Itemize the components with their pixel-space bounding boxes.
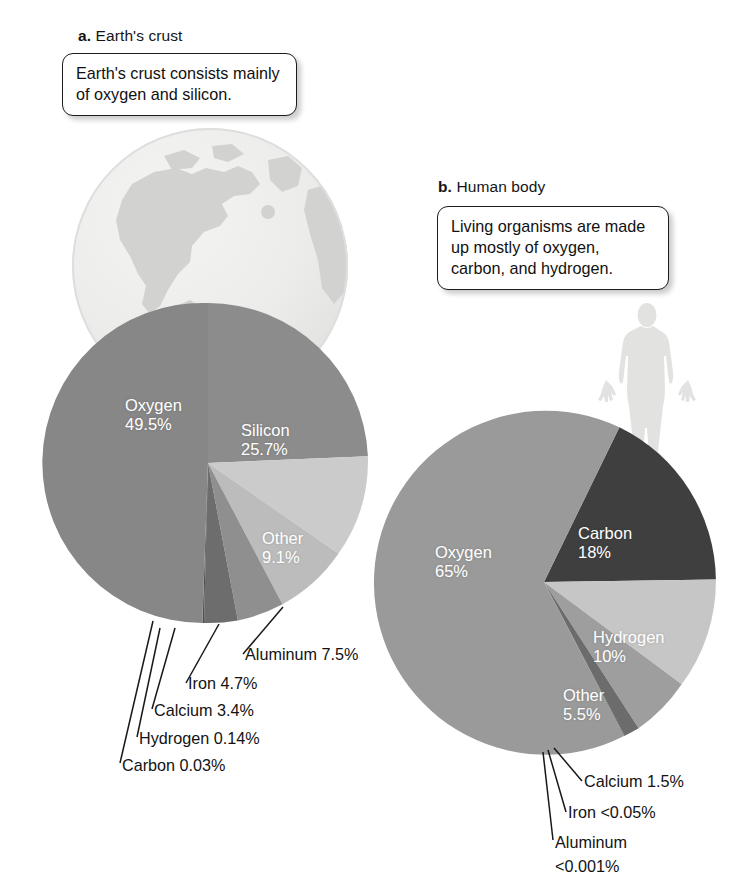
caption-aluminum-body-line1: Aluminum: [555, 833, 627, 852]
slice-value: 5.5%: [563, 705, 601, 723]
pie-chart-human-body: [365, 403, 723, 761]
caption-iron-crust: Iron 4.7%: [188, 674, 257, 693]
pie-b-slice-label-oxygen: Oxygen 65%: [435, 543, 492, 581]
slice-name: Silicon: [241, 421, 290, 439]
panel-a-callout-text: Earth's crust consists mainly of oxygen …: [76, 64, 280, 103]
panel-b-callout-box: Living organisms are made up mostly of o…: [437, 206, 669, 290]
slice-value: 65%: [435, 562, 468, 580]
panel-b-heading: b. Human body: [438, 178, 545, 196]
slice-name: Other: [262, 529, 303, 547]
caption-aluminum-crust: Aluminum 7.5%: [245, 645, 358, 664]
caption-carbon-crust: Carbon 0.03%: [122, 756, 226, 775]
slice-value: 9.1%: [262, 548, 300, 566]
caption-aluminum-body-line2: <0.001%: [555, 857, 619, 876]
pie-b-slice-label-carbon: Carbon 18%: [578, 524, 632, 562]
caption-iron-body: Iron <0.05%: [568, 803, 656, 822]
pie-b-slice-label-hydrogen: Hydrogen 10%: [593, 628, 665, 666]
panel-a-callout-box: Earth's crust consists mainly of oxygen …: [62, 53, 297, 116]
pie-a-slice-label-oxygen: Oxygen 49.5%: [125, 396, 182, 434]
caption-calcium-body: Calcium 1.5%: [584, 772, 684, 791]
slice-value: 49.5%: [125, 415, 172, 433]
slice-name: Carbon: [578, 524, 632, 542]
pie-a-slice-label-silicon: Silicon 25.7%: [241, 421, 290, 459]
panel-b-title: Human body: [456, 178, 545, 195]
pie-b-slice-label-other: Other 5.5%: [563, 686, 604, 724]
slice-name: Oxygen: [435, 543, 492, 561]
panel-a-letter: a.: [78, 27, 91, 44]
panel-a-title: Earth's crust: [96, 27, 183, 44]
panel-b-letter: b.: [438, 178, 452, 195]
slice-value: 25.7%: [241, 440, 288, 458]
caption-hydrogen-crust: Hydrogen 0.14%: [139, 729, 260, 748]
figure-canvas: Oxygen 49.5% Silicon 25.7% Other 9.1%: [0, 0, 736, 893]
slice-name: Other: [563, 686, 604, 704]
panel-b-callout-text: Living organisms are made up mostly of o…: [451, 217, 645, 277]
slice-value: 10%: [593, 647, 626, 665]
slice-name: Oxygen: [125, 396, 182, 414]
slice-value: 18%: [578, 543, 611, 561]
pie-a-slice-label-other: Other 9.1%: [262, 529, 303, 567]
slice-name: Hydrogen: [593, 628, 665, 646]
caption-calcium-crust: Calcium 3.4%: [154, 701, 254, 720]
panel-a-heading: a. Earth's crust: [78, 27, 183, 45]
pie-chart-earths-crust: [40, 295, 376, 631]
